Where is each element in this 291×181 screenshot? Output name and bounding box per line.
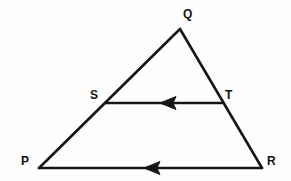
geometry-figure: Q S T P R [0, 0, 291, 181]
vertex-label-t: T [225, 89, 232, 101]
segment-pq [39, 29, 180, 168]
segment-qr [180, 29, 262, 168]
vertex-label-s: S [90, 89, 98, 101]
geometry-canvas [0, 0, 291, 181]
vertex-label-q: Q [183, 8, 192, 20]
vertex-label-r: R [267, 155, 276, 167]
vertex-label-p: P [21, 155, 29, 167]
